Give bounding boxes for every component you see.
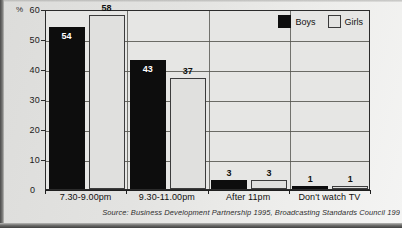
y-axis-tick-0: 0 [30,185,35,195]
chart-plot-frame: 545843373311 Boys Girls [45,10,370,190]
bar-value-label: 1 [348,174,353,184]
category-separator-2 [209,11,210,189]
category-label-1: 9.30-11.00pm [139,192,195,202]
bar-value-label: 3 [267,168,272,178]
y-axis-tick-60: 60 [0,5,40,15]
bar-boys-1: 43 [130,60,166,189]
x-axis-tick-start [45,190,46,194]
chart-page: % 545843373311 Boys Girls 102030405060 0… [0,0,402,228]
bar-value-label: 1 [308,174,313,184]
y-axis-tick-40: 40 [0,65,40,75]
category-separator-1 [127,11,128,189]
y-axis-tick-10: 10 [0,155,40,165]
bar-value-label: 3 [227,168,232,178]
bar-value-label: 43 [143,64,153,74]
category-label-2: After 11pm [226,192,270,202]
scan-edge-bottom [0,223,402,228]
bar-value-label: 37 [183,66,193,76]
bar-value-label: 58 [102,3,112,13]
legend-swatch-girls [328,15,341,28]
y-axis-tickmark-10 [41,160,45,161]
y-axis-tickmark-50 [41,40,45,41]
bar-boys-2: 3 [211,180,247,189]
scan-edge-top [0,0,402,2]
y-axis-tickmark-20 [41,130,45,131]
bar-boys-0: 54 [49,27,85,189]
category-separator-3 [290,11,291,189]
x-axis-tick-2 [289,190,290,194]
y-axis-tickmark-30 [41,100,45,101]
y-axis-tickmark-40 [41,70,45,71]
chart-legend: Boys Girls [271,15,363,28]
source-note: Source: Business Development Partnership… [0,208,400,217]
legend-label-boys: Boys [295,17,315,27]
legend-swatch-boys [278,15,291,28]
x-axis-tick-1 [208,190,209,194]
bar-value-label: 54 [62,31,72,41]
legend-item-boys: Boys [278,15,315,28]
bar-boys-3: 1 [292,186,328,189]
bar-girls-0: 58 [89,15,125,189]
bar-girls-1: 37 [170,78,206,189]
category-label-0: 7.30-9.00pm [60,192,112,202]
bar-girls-2: 3 [251,180,287,189]
x-axis-tick-0 [126,190,127,194]
bar-girls-3: 1 [332,186,368,189]
y-axis-tick-20: 20 [0,125,40,135]
y-axis-tickmark-60 [41,10,45,11]
plot-area: 545843373311 [46,11,369,189]
x-axis-tick-3 [370,190,371,194]
legend-label-girls: Girls [345,17,364,27]
legend-item-girls: Girls [328,15,364,28]
y-axis-tick-30: 30 [0,95,40,105]
x-axis-line [45,190,370,191]
y-axis-tick-50: 50 [0,35,40,45]
category-label-3: Don't watch TV [298,192,360,202]
